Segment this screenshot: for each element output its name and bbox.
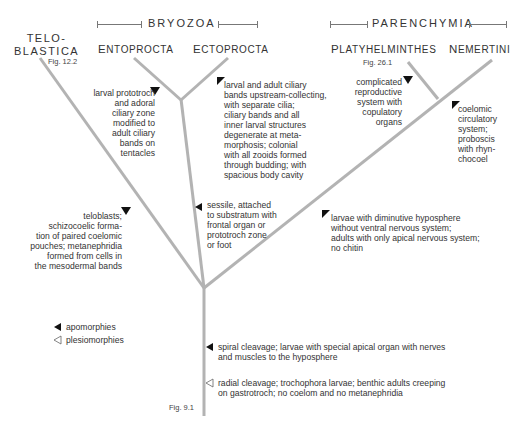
character-ectoprocta: larval and adult ciliary bands upstream-… <box>224 80 327 180</box>
group-label-bryozoa: BRYOZOA <box>148 17 216 29</box>
taxon-ectoprocta: ECTOPROCTA <box>193 43 269 55</box>
character-spiralia-plesiomorphy: radial cleavage; trochophora larvae; ben… <box>218 378 445 398</box>
plesiomorphy-marker-icon <box>205 378 214 388</box>
apomorphy-marker-icon <box>403 76 413 84</box>
fig-ref-teloblastica: Fig. 12.2 <box>48 57 77 66</box>
parenchymia-bracket-left <box>330 24 368 25</box>
taxon-teloblastica: TELO- BLASTICA <box>14 32 79 58</box>
character-spiralia-apomorphy: spiral cleavage; larvae with special api… <box>218 342 445 362</box>
filled-triangle-icon <box>54 323 61 331</box>
bryozoa-bracket-left <box>97 24 142 25</box>
apomorphy-marker-icon <box>322 210 330 218</box>
fig-ref-platyhelminthes: Fig. 26.1 <box>363 58 392 67</box>
taxon-platyhelminthes: PLATYHELMINTHES <box>331 43 436 55</box>
parenchymia-bracket-right <box>469 24 507 25</box>
character-entoprocta: larval prototroch and adoral ciliary zon… <box>70 88 155 158</box>
character-teloblastica: teloblasts; schizocoelic forma- tion of … <box>6 211 122 271</box>
group-label-parenchymia: PARENCHYMIA <box>372 17 474 29</box>
bryozoa-bracket-right <box>218 24 258 25</box>
character-platyhelminthes: complicated reproductive system with cop… <box>318 77 402 127</box>
taxon-entoprocta: ENTOPROCTA <box>98 43 174 55</box>
character-bryozoa: sessile, attached to substratum with fro… <box>207 200 277 250</box>
taxon-nemertini: NEMERTINI <box>449 43 510 55</box>
fig-ref-root: Fig. 9.1 <box>169 403 194 412</box>
apomorphy-marker-icon <box>121 207 131 215</box>
apomorphy-marker-icon <box>195 203 202 211</box>
open-triangle-icon <box>53 335 62 345</box>
character-nemertini: coelomic circulatory system; proboscis w… <box>458 104 497 164</box>
character-parenchymia: larvae with diminutive hyposphere withou… <box>331 213 480 253</box>
apomorphy-marker-icon <box>206 343 213 351</box>
